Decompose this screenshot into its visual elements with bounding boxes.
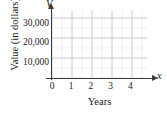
y-tick-label: 30,000 xyxy=(5,19,49,29)
x-axis-title: Years xyxy=(52,97,147,108)
y-axis-variable-label: V xyxy=(46,0,52,10)
x-tick-label: 2 xyxy=(83,82,99,92)
x-tick-label: 1 xyxy=(63,82,79,92)
grid-lines xyxy=(52,10,147,78)
y-tick-label: 10,000 xyxy=(5,58,49,68)
graph-figure: Value (in dollars) 30,000 20,000 10,000 … xyxy=(0,0,167,123)
x-axis-variable-label: x xyxy=(157,71,162,82)
x-tick-label: 0 xyxy=(44,82,60,92)
x-tick-label: 4 xyxy=(122,82,138,92)
x-axis-line xyxy=(46,78,153,79)
y-axis-line xyxy=(51,8,52,80)
y-tick-label-group: 30,000 20,000 10,000 xyxy=(0,0,49,123)
plot-area xyxy=(52,10,147,78)
x-tick-label: 3 xyxy=(103,82,119,92)
y-tick-label: 20,000 xyxy=(5,38,49,48)
